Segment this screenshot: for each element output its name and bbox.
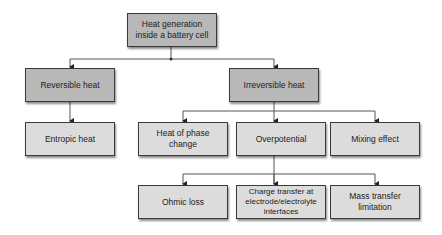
node-label: Overpotential [256, 134, 307, 145]
node-label: Mass transfer limitation [343, 191, 407, 213]
node-mixing-effect: Mixing effect [330, 122, 420, 156]
node-ohmic-loss: Ohmic loss [138, 185, 228, 219]
root-node: Heat generation inside a battery cell [127, 13, 217, 47]
node-label: Heat of phase change [142, 128, 224, 150]
node-irreversible-heat: Irreversible heat [229, 68, 319, 102]
node-label: Irreversible heat [244, 80, 305, 91]
node-label: Mixing effect [351, 134, 399, 145]
node-label: Charge transfer at electrode/electrolyte… [240, 187, 322, 217]
node-label: Ohmic loss [162, 197, 204, 208]
root-node-label: Heat generation inside a battery cell [131, 19, 213, 41]
node-label: Entropic heat [45, 134, 95, 145]
node-reversible-heat: Reversible heat [25, 68, 115, 102]
node-entropic-heat: Entropic heat [25, 122, 115, 156]
node-charge-transfer: Charge transfer at electrode/electrolyte… [236, 185, 326, 219]
node-mass-transfer-limitation: Mass transfer limitation [330, 185, 420, 219]
node-label: Reversible heat [40, 80, 99, 91]
node-heat-of-phase-change: Heat of phase change [138, 122, 228, 156]
node-overpotential: Overpotential [236, 122, 326, 156]
